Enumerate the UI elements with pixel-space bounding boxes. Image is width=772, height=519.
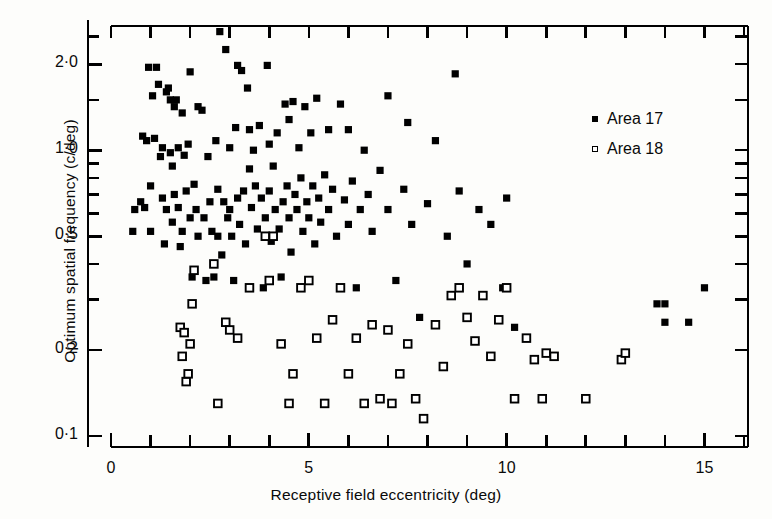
legend-label-area-17: Area 17 — [607, 110, 663, 128]
data-point-filled — [283, 182, 290, 189]
legend-item-area-18: Area 18 — [592, 140, 663, 158]
data-point-filled — [369, 228, 376, 235]
data-point-filled — [218, 251, 225, 258]
data-point-filled — [289, 98, 296, 105]
data-point-open — [420, 415, 428, 423]
data-point-filled — [376, 167, 383, 174]
data-point-filled — [416, 314, 423, 321]
data-point-filled — [256, 122, 263, 129]
data-point-filled — [325, 126, 332, 133]
data-point-filled — [165, 84, 172, 91]
data-point-open — [297, 284, 305, 292]
data-point-filled — [147, 182, 154, 189]
data-point-filled — [337, 100, 344, 107]
data-point-filled — [240, 187, 247, 194]
data-point-filled — [244, 84, 251, 91]
data-point-filled — [159, 194, 166, 201]
data-point-filled — [661, 300, 668, 307]
data-point-open — [622, 349, 630, 357]
data-point-filled — [187, 68, 194, 75]
data-point-open — [289, 370, 297, 378]
data-point-filled — [242, 240, 249, 247]
data-point-filled — [321, 171, 328, 178]
data-point-filled — [194, 233, 201, 240]
data-point-filled — [384, 206, 391, 213]
data-point-filled — [254, 225, 261, 232]
data-point-filled — [272, 206, 279, 213]
data-point-open — [531, 356, 539, 364]
data-point-filled — [153, 64, 160, 71]
data-point-open — [345, 370, 353, 378]
data-point-filled — [400, 186, 407, 193]
data-point-open — [440, 363, 448, 371]
data-point-filled — [206, 198, 213, 205]
data-point-open — [210, 260, 218, 268]
y-tick-label: 0·1 — [14, 425, 78, 443]
data-point-filled — [145, 64, 152, 71]
data-point-open — [246, 284, 254, 292]
data-point-filled — [214, 186, 221, 193]
data-point-filled — [222, 46, 229, 53]
data-point-open — [178, 353, 186, 361]
data-point-filled — [226, 206, 233, 213]
data-point-filled — [456, 187, 463, 194]
data-point-filled — [305, 214, 312, 221]
x-tick-label: 0 — [81, 459, 141, 477]
data-point-open — [214, 400, 222, 408]
data-point-filled — [266, 187, 273, 194]
data-point-filled — [163, 206, 170, 213]
data-point-filled — [250, 147, 257, 154]
data-point-open — [337, 284, 345, 292]
data-point-open — [321, 400, 329, 408]
data-point-open — [190, 266, 198, 274]
scatter-plot-svg — [0, 0, 772, 519]
data-point-filled — [179, 228, 186, 235]
open-square-icon — [592, 146, 598, 152]
data-point-filled — [313, 95, 320, 102]
data-point-open — [432, 321, 440, 329]
data-point-open — [511, 395, 519, 403]
data-point-filled — [234, 194, 241, 201]
data-point-filled — [173, 96, 180, 103]
data-point-open — [471, 337, 479, 345]
data-point-filled — [661, 319, 668, 326]
data-point-filled — [285, 116, 292, 123]
data-point-filled — [452, 70, 459, 77]
data-point-filled — [511, 324, 518, 331]
data-point-open — [455, 284, 463, 292]
data-point-filled — [307, 129, 314, 136]
data-point-open — [180, 329, 188, 337]
data-point-filled — [365, 191, 372, 198]
data-point-filled — [301, 103, 308, 110]
data-point-open — [186, 340, 194, 348]
data-point-open — [404, 340, 412, 348]
data-point-filled — [325, 206, 332, 213]
legend-item-area-17: Area 17 — [592, 110, 663, 128]
data-point-filled — [444, 233, 451, 240]
data-point-filled — [151, 135, 158, 142]
data-point-filled — [311, 240, 318, 247]
data-point-open — [542, 349, 550, 357]
data-point-filled — [384, 92, 391, 99]
data-point-open — [523, 334, 531, 342]
data-point-filled — [177, 243, 184, 250]
data-point-filled — [285, 214, 292, 221]
data-point-open — [353, 334, 361, 342]
data-point-filled — [226, 144, 233, 151]
data-point-filled — [357, 206, 364, 213]
data-point-filled — [281, 100, 288, 107]
series-area-17 — [129, 28, 708, 331]
x-axis-title: Receptive field eccentricity (deg) — [0, 486, 772, 504]
data-point-filled — [503, 194, 510, 201]
data-point-filled — [131, 206, 138, 213]
data-point-open — [222, 318, 230, 326]
data-point-filled — [171, 103, 178, 110]
data-point-filled — [210, 273, 217, 280]
data-point-filled — [280, 198, 287, 205]
data-point-filled — [701, 284, 708, 291]
data-point-filled — [315, 194, 322, 201]
data-point-filled — [216, 28, 223, 35]
data-point-filled — [141, 204, 148, 211]
data-point-filled — [361, 147, 368, 154]
data-point-filled — [212, 137, 219, 144]
